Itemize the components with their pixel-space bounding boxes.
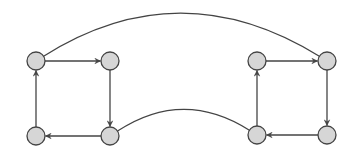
graph-node-a2: [101, 52, 119, 70]
graph-node-b2: [318, 52, 336, 70]
graph-node-b3: [318, 126, 336, 144]
graph-node-a1: [27, 52, 45, 70]
graph-node-a3: [101, 127, 119, 145]
graph-diagram: [0, 0, 361, 160]
undirected-edge-a3-b4: [118, 109, 250, 131]
graph-node-b1: [248, 52, 266, 70]
nodes-layer: [27, 52, 336, 145]
undirected-edge-a1-b2: [44, 13, 320, 56]
edges-layer: [36, 13, 327, 136]
graph-node-b4: [248, 126, 266, 144]
graph-node-a4: [27, 127, 45, 145]
